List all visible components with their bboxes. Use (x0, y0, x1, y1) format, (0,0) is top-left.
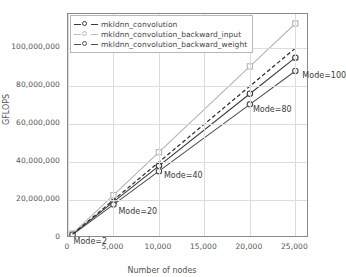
x-axis-tick (204, 236, 205, 237)
legend-label: mkldnn_convolution_backward_input (98, 30, 241, 39)
annotation-mode-100: Mode=100 (302, 71, 346, 80)
y-axis-tick (67, 200, 68, 201)
y-tick-label: 40,000,000 (0, 156, 60, 165)
legend-item[interactable]: mkldnn_convolution_backward_weight (74, 39, 247, 49)
y-tick-label: 60,000,000 (0, 118, 60, 127)
x-axis-tick (295, 236, 296, 237)
annotation-mode-80: Mode=80 (253, 105, 292, 114)
x-axis-title: Number of nodes (0, 266, 324, 275)
x-tick-label: 25,000 (269, 242, 319, 251)
y-axis-tick (67, 48, 68, 49)
series-line-mkldnn_convolution_backward_input (73, 23, 296, 233)
y-axis-tick (67, 86, 68, 87)
legend-label: mkldnn_convolution_backward_weight (98, 40, 247, 49)
y-axis-tick (67, 124, 68, 125)
y-tick-label: 80,000,000 (0, 80, 60, 89)
x-axis-tick (68, 236, 69, 237)
x-axis-tick (113, 236, 114, 237)
series-line-mkldnn_convolution_backward_weight (73, 71, 296, 235)
legend: mkldnn_convolution mkldnn_convolution_ba… (70, 15, 253, 53)
series-line-mkldnn_convolution (73, 58, 296, 235)
y-axis-tick (67, 162, 68, 163)
x-axis-tick (250, 236, 251, 237)
annotation-mode-2: Mode=2 (74, 237, 108, 246)
legend-item[interactable]: mkldnn_convolution (74, 19, 247, 29)
legend-item[interactable]: mkldnn_convolution_backward_input (74, 29, 247, 39)
annotation-mode-40: Mode=40 (164, 171, 203, 180)
y-tick-label: 0 (0, 232, 60, 241)
gridline-horizontal (68, 162, 307, 163)
legend-marker-icon (74, 39, 98, 49)
legend-label: mkldnn_convolution (98, 20, 177, 29)
gridline-horizontal (68, 124, 307, 125)
legend-marker-icon (74, 19, 98, 29)
annotation-mode-20: Mode=20 (118, 207, 157, 216)
series-line-ideal (73, 48, 296, 234)
y-tick-label: 20,000,000 (0, 194, 60, 203)
x-tick-label: 20,000 (224, 242, 274, 251)
x-tick-label: 15,000 (178, 242, 228, 251)
gridline-horizontal (68, 86, 307, 87)
x-axis-tick (159, 236, 160, 237)
x-tick-label: 10,000 (133, 242, 183, 251)
gridline-horizontal (68, 200, 307, 201)
legend-marker-icon (74, 29, 98, 39)
y-tick-label: 100,000,000 (0, 42, 60, 51)
